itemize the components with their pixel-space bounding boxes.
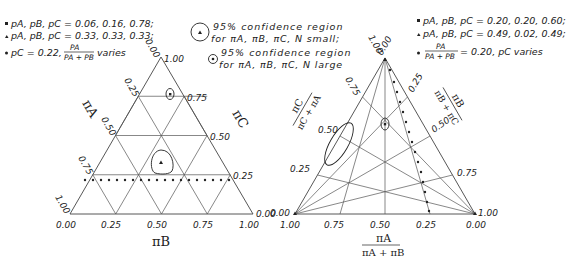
left-b-tick-050: 0.50 xyxy=(147,220,167,230)
triangle-point-icon xyxy=(383,58,387,62)
square-marker-icon xyxy=(417,19,420,22)
right-legend-fraction-num: PA xyxy=(436,42,445,51)
left-a-tick-000: 0.00 xyxy=(143,37,162,60)
left-legend-line-3-prefix: pC = 0.22, xyxy=(10,47,62,58)
center-legend-1-line-2: for πA, πB, πC, N small; xyxy=(211,33,340,44)
dot-marker-icon xyxy=(5,52,8,55)
right-bottom-tick-050: 0.50 xyxy=(370,220,390,230)
right-bottom-tick-025: 0.25 xyxy=(416,220,436,230)
right-axis-title-left: πC πC + πA xyxy=(283,86,323,132)
square-point-icon xyxy=(384,123,386,125)
left-axis-title-pi-b: πB xyxy=(152,234,170,249)
left-b-tick-100: 1.00 xyxy=(239,220,259,230)
left-b-tick-025: 0.25 xyxy=(101,220,121,230)
left-c-tick-025: 0.25 xyxy=(233,171,253,181)
triangle-marker-icon xyxy=(417,33,421,36)
right-bottom-tick-075: 0.75 xyxy=(324,220,344,230)
right-left-tick-075: 0.75 xyxy=(343,75,362,98)
center-legend-2-line-1: 95% confidence region xyxy=(221,47,351,58)
confidence-region-small-n xyxy=(151,150,173,174)
center-legend-1-line-1: 95% confidence region xyxy=(213,21,343,32)
svg-text:πA + πB: πA + πB xyxy=(362,247,404,258)
left-a-tick-075: 0.75 xyxy=(76,154,95,177)
right-axis-title-bottom: πA πA + πB xyxy=(362,232,404,258)
right-left-vertex-label-000: 0.00 xyxy=(270,208,290,218)
left-b-tick-000: 0.00 xyxy=(56,220,76,230)
left-a-tick-025: 0.25 xyxy=(122,76,141,99)
triangle-marker-icon xyxy=(5,35,9,38)
left-legend-fraction-num: PA xyxy=(70,43,79,52)
left-c-tick-075: 0.75 xyxy=(187,93,207,103)
center-legend: 95% confidence region for πA, πB, πC, N … xyxy=(191,21,351,70)
left-legend-line-1: pA, pB, pC = 0.06, 0.16, 0.78; xyxy=(10,18,154,29)
right-legend-fraction-den: PA + PB xyxy=(425,52,455,61)
triangle-point-icon xyxy=(159,161,163,165)
right-legend: pA, pB, pC = 0.20, 0.20, 0.60; pA, pB, p… xyxy=(417,15,566,61)
square-marker-icon xyxy=(5,22,8,25)
left-legend-line-2: pA, pB, pC = 0.33, 0.33, 0.33; xyxy=(10,30,154,41)
dotted-series-pc-022 xyxy=(84,179,230,181)
left-legend: pA, pB, pC = 0.06, 0.16, 0.78; pA, pB, p… xyxy=(5,18,154,62)
right-left-tick-025: 0.25 xyxy=(290,164,310,174)
right-left-vertex-label-100: 1.00 xyxy=(280,220,300,230)
left-legend-fraction-den: PA + PB xyxy=(64,53,94,62)
left-c-tick-100: 1.00 xyxy=(164,54,184,64)
left-b-tick-075: 0.75 xyxy=(193,220,213,230)
svg-text:πA: πA xyxy=(376,232,392,245)
left-a-tick-050: 0.50 xyxy=(99,115,118,138)
left-axis-title-pi-c: πC xyxy=(229,107,251,131)
right-right-vertex-label-100: 1.00 xyxy=(478,208,498,218)
right-right-tick-075: 0.75 xyxy=(457,168,477,178)
left-a-tick-100: 1.00 xyxy=(53,193,72,216)
square-point-icon xyxy=(169,93,171,95)
right-right-tick-025: 0.25 xyxy=(406,71,425,94)
left-legend-line-3-suffix: varies xyxy=(97,47,126,58)
right-legend-line-1: pA, pB, pC = 0.20, 0.20, 0.60; xyxy=(422,15,566,26)
right-legend-line-2: pA, pB, pC = 0.49, 0.02, 0.49; xyxy=(422,28,566,39)
center-legend-2-line-2: for πA, πB, πC, N large xyxy=(219,59,343,70)
right-left-tick-050: 0.50 xyxy=(318,125,338,135)
right-right-vertex-label-000: 0.00 xyxy=(466,220,486,230)
ternary-diagram-figure: pA, pB, pC = 0.06, 0.16, 0.78; pA, pB, p… xyxy=(0,0,568,263)
dot-marker-icon xyxy=(417,52,420,55)
left-c-tick-050: 0.50 xyxy=(210,132,230,142)
right-legend-line-3-suffix: = 0.20, pC varies xyxy=(460,46,543,57)
left-axis-title-pi-a: πA xyxy=(79,97,101,121)
